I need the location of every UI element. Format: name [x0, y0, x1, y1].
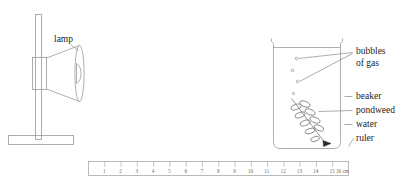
stand-rod-icon [36, 15, 42, 140]
water-label: water [356, 119, 378, 129]
bubbles-group [291, 57, 299, 95]
bulb-icon [77, 64, 82, 84]
lamp-leader-line [71, 45, 79, 51]
label-column: bubbles of gas beaker pondweed water rul… [356, 46, 395, 143]
pondweed-label: pondweed [356, 105, 395, 115]
ruler-label: ruler [356, 133, 375, 143]
lamp-shade-icon [47, 46, 85, 102]
ruler-icon: 1 2 3 4 5 6 7 8 9 10 11 12 13 14 15 16 c… [89, 162, 349, 176]
bubbles-label-line2: of gas [356, 58, 379, 68]
ruler-tick-6: 6 [184, 168, 187, 174]
ruler-tick-5: 5 [168, 168, 171, 174]
beaker-leader-lines [299, 53, 354, 147]
lamp-label: lamp [54, 34, 73, 44]
ruler-unit-label: 16 cm [336, 168, 349, 174]
ruler-tick-12: 12 [281, 168, 287, 174]
lamp-assembly: lamp [9, 15, 85, 145]
ruler-tick-10: 10 [248, 168, 254, 174]
stand-base-icon [9, 136, 74, 145]
ruler-tick-9: 9 [233, 168, 236, 174]
ruler-tick-14: 14 [313, 168, 319, 174]
ruler-tick-15: 15 [329, 168, 335, 174]
ruler-tick-4: 4 [152, 168, 155, 174]
ruler-tick-8: 8 [217, 168, 220, 174]
ruler-tick-11: 11 [264, 168, 269, 174]
beaker-label: beaker [356, 91, 382, 101]
ruler-tick-1: 1 [103, 168, 106, 174]
ruler-tick-3: 3 [136, 168, 139, 174]
diagram-canvas: lamp [0, 0, 404, 182]
pondweed-icon [290, 99, 331, 147]
beaker-assembly [272, 39, 354, 149]
ruler-tick-2: 2 [119, 168, 122, 174]
ruler-tick-13: 13 [297, 168, 303, 174]
bubbles-label: bubbles [356, 46, 386, 56]
lamp-body-icon [33, 58, 47, 90]
ruler-tick-7: 7 [201, 168, 204, 174]
